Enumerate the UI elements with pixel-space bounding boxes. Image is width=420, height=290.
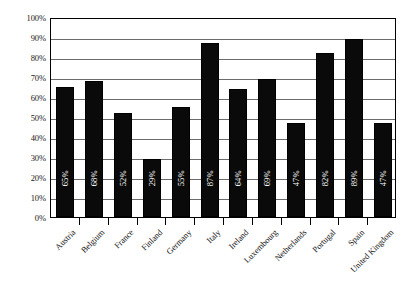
x-axis-category-label: Portugal — [311, 228, 337, 254]
x-axis-tick — [367, 218, 368, 225]
bar[interactable]: 29% — [143, 159, 161, 217]
x-axis-tick — [79, 218, 80, 225]
bar-slot: 29% — [138, 19, 167, 217]
x-axis-tick — [338, 218, 339, 225]
bar[interactable]: 65% — [56, 87, 74, 217]
bar-value-label: 55% — [176, 170, 185, 186]
y-axis-tick-label: 10% — [12, 194, 46, 203]
bar[interactable]: 68% — [85, 81, 103, 217]
y-axis-tick-label: 40% — [12, 134, 46, 143]
bar-value-label: 29% — [148, 170, 157, 186]
bar-value-label: 82% — [321, 170, 330, 186]
x-axis-category-label: Finland — [140, 228, 164, 252]
y-axis-tick-label: 90% — [12, 34, 46, 43]
y-axis-tick-label: 100% — [12, 14, 46, 23]
y-axis-tick-label: 50% — [12, 114, 46, 123]
bar-value-label: 52% — [119, 170, 128, 186]
x-axis-tick — [108, 218, 109, 225]
y-axis: 0%10%20%30%40%50%60%70%80%90%100% — [8, 0, 46, 290]
bar-value-label: 68% — [90, 170, 99, 186]
x-axis-category-label: Spain — [346, 228, 366, 248]
plot-area: 65%68%52%29%55%87%64%69%47%82%89%47% — [50, 18, 396, 218]
bar[interactable]: 89% — [345, 39, 363, 217]
bar-value-label: 87% — [205, 170, 214, 186]
bar-slot: 82% — [311, 19, 340, 217]
bar-slot: 89% — [339, 19, 368, 217]
x-axis-category-label: France — [113, 228, 135, 250]
x-axis-tick — [194, 218, 195, 225]
bar-slot: 47% — [282, 19, 311, 217]
bar-slot: 47% — [368, 19, 397, 217]
bar-slot: 65% — [51, 19, 80, 217]
bar-slot: 64% — [224, 19, 253, 217]
x-axis-tick — [252, 218, 253, 225]
y-axis-tick-label: 30% — [12, 154, 46, 163]
x-axis-tick — [223, 218, 224, 225]
bar-value-label: 64% — [234, 170, 243, 186]
bar-value-label: 69% — [263, 170, 272, 186]
bar-chart: 0%10%20%30%40%50%60%70%80%90%100% 65%68%… — [0, 0, 420, 290]
x-axis-category-label: Italy — [205, 228, 222, 245]
x-axis-category-label: Austria — [54, 228, 77, 251]
bar[interactable]: 47% — [287, 123, 305, 217]
bar-slot: 68% — [80, 19, 109, 217]
bar-value-label: 89% — [349, 170, 358, 186]
bar-value-label: 47% — [292, 170, 301, 186]
y-axis-tick-label: 0% — [12, 214, 46, 223]
y-axis-tick-label: 80% — [12, 54, 46, 63]
bar-slot: 69% — [253, 19, 282, 217]
bar-value-label: 47% — [378, 170, 387, 186]
bar-value-label: 65% — [61, 170, 70, 186]
bar[interactable]: 52% — [114, 113, 132, 217]
x-axis-category-label: Belgium — [80, 228, 106, 254]
x-axis-ticks — [50, 218, 396, 226]
bar[interactable]: 87% — [201, 43, 219, 217]
y-axis-tick-label: 70% — [12, 74, 46, 83]
x-axis-tick — [310, 218, 311, 225]
x-axis-tick — [281, 218, 282, 225]
bar-slot: 55% — [166, 19, 195, 217]
bar[interactable]: 64% — [229, 89, 247, 217]
bars-layer: 65%68%52%29%55%87%64%69%47%82%89%47% — [51, 19, 395, 217]
x-axis-category-label: Germany — [165, 228, 193, 256]
x-axis-category-label: Ireland — [228, 228, 251, 251]
x-axis-tick — [165, 218, 166, 225]
bar[interactable]: 69% — [258, 79, 276, 217]
x-axis: AustriaBelgiumFranceFinlandGermanyItalyI… — [50, 228, 396, 290]
x-axis-tick — [137, 218, 138, 225]
y-axis-tick-label: 20% — [12, 174, 46, 183]
bar[interactable]: 82% — [316, 53, 334, 217]
bar-slot: 87% — [195, 19, 224, 217]
bar[interactable]: 55% — [172, 107, 190, 217]
bar[interactable]: 47% — [374, 123, 392, 217]
bar-slot: 52% — [109, 19, 138, 217]
y-axis-tick-label: 60% — [12, 94, 46, 103]
